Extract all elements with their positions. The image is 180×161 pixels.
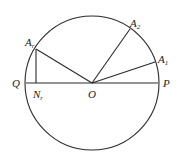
- label-ar: Ar: [24, 36, 35, 50]
- label-q: Q: [12, 77, 20, 89]
- radius-oa1: [92, 62, 155, 83]
- label-a1: A1: [157, 53, 168, 67]
- label-o: O: [88, 88, 96, 100]
- radius-oar: [36, 49, 92, 83]
- label-nr: Nr: [32, 88, 43, 102]
- label-a2: A2: [129, 17, 141, 31]
- radius-oa2: [92, 29, 130, 83]
- circle-diagram: Q P O Nr Ar A2 A1: [0, 0, 180, 161]
- label-p: P: [162, 77, 170, 89]
